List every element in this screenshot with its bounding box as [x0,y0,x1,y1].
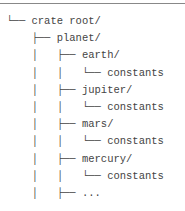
tree-label: constants [107,101,164,113]
tree-label: mars/ [82,118,114,130]
tree-branch: └── [0,15,32,27]
tree-label: constants [107,67,164,79]
tree-branch: │ ├── [0,153,82,165]
tree-row: │ │ └── constants [0,168,164,185]
tree-branch: │ ├── [0,118,82,130]
tree-label: jupiter/ [82,84,132,96]
tree-row: ├── planet/ [0,30,164,47]
tree-row: │ ├── earth/ [0,47,164,64]
tree-row: │ ├── ... [0,185,164,202]
module-tree: └── crate root/ ├── planet/ │ ├── earth/… [0,13,164,202]
tree-row: │ ├── mercury/ [0,151,164,168]
tree-branch: │ ├── [0,49,82,61]
top-border [0,3,185,4]
tree-branch: │ │ └── [0,67,107,79]
tree-label: ... [82,187,101,199]
tree-row: │ │ └── constants [0,133,164,150]
tree-row: └── crate root/ [0,13,164,30]
tree-branch: │ │ └── [0,135,107,147]
tree-label: constants [107,170,164,182]
tree-branch: ├── [0,32,57,44]
tree-branch: │ ├── [0,84,82,96]
tree-label: constants [107,135,164,147]
tree-label: planet/ [57,32,101,44]
tree-row: │ │ └── constants [0,99,164,116]
tree-branch: │ │ └── [0,101,107,113]
tree-label: mercury/ [82,153,132,165]
tree-row: │ ├── jupiter/ [0,82,164,99]
tree-branch: │ ├── [0,187,82,199]
tree-row: │ ├── mars/ [0,116,164,133]
tree-row: │ │ └── constants [0,65,164,82]
tree-branch: │ │ └── [0,170,107,182]
tree-label: crate root/ [32,15,101,27]
tree-label: earth/ [82,49,120,61]
